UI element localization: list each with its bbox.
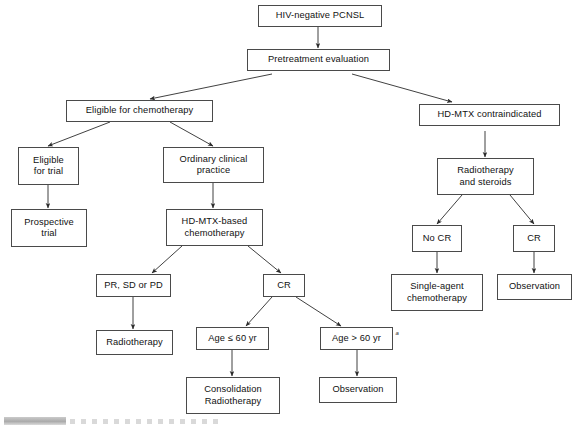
edge-hdmtxchemo-to-crcenter — [248, 246, 281, 273]
node-label: Consolidation Radiotherapy — [204, 384, 262, 407]
node-hd-mtx-contraindicated: HD-MTX contraindicated — [419, 104, 560, 126]
node-label: PR, SD or PD — [104, 280, 163, 292]
node-label: CR — [277, 280, 291, 292]
node-label: Prospective trial — [24, 217, 74, 240]
footnote-marker-a: a — [396, 328, 399, 340]
edge-pretreatment-to-hdmtx — [352, 74, 452, 102]
edge-radiosteroids-to-nocr — [437, 195, 462, 224]
node-label: No CR — [423, 233, 451, 245]
edge-hdmtxchemo-to-prsdpd — [152, 246, 182, 273]
node-single-agent-chemotherapy: Single-agent chemotherapy — [391, 274, 483, 311]
edge-crcenter-to-agegt60 — [296, 297, 341, 326]
edge-eligible-to-trial — [48, 122, 110, 146]
node-radiotherapy-and-steroids: Radiotherapy and steroids — [437, 158, 534, 195]
node-label: Eligible for chemotherapy — [86, 105, 193, 117]
node-label: Observation — [509, 281, 560, 293]
node-consolidation-radiotherapy: Consolidation Radiotherapy — [186, 377, 280, 414]
edge-radiosteroids-to-crright — [510, 195, 534, 224]
node-label: HD-MTX contraindicated — [438, 109, 542, 121]
node-label: Eligible for trial — [33, 155, 64, 178]
node-label: Age ≤ 60 yr — [208, 333, 257, 345]
node-radiotherapy-left: Radiotherapy — [96, 330, 173, 355]
node-label: Radiotherapy — [106, 337, 163, 349]
edge-crcenter-to-agele60 — [246, 297, 272, 326]
node-eligible-for-trial: Eligible for trial — [18, 147, 79, 185]
node-label: Radiotherapy and steroids — [457, 165, 514, 188]
node-hiv-negative-pcnsl: HIV-negative PCNSL — [258, 5, 382, 27]
node-no-cr: No CR — [412, 225, 462, 252]
flowchart-canvas: HIV-negative PCNSL Pretreatment evaluati… — [0, 0, 575, 427]
node-ordinary-clinical-practice: Ordinary clinical practice — [163, 147, 264, 183]
node-label: Single-agent chemotherapy — [407, 281, 467, 304]
node-hd-mtx-based-chemotherapy: HD-MTX-based chemotherapy — [166, 209, 263, 246]
node-label: Pretreatment evaluation — [268, 54, 369, 66]
node-eligible-for-chemotherapy: Eligible for chemotherapy — [66, 100, 213, 122]
scan-edge-artifact — [4, 417, 66, 425]
node-prospective-trial: Prospective trial — [11, 209, 87, 247]
node-pr-sd-or-pd: PR, SD or PD — [96, 274, 171, 297]
node-pretreatment-evaluation: Pretreatment evaluation — [247, 49, 390, 71]
node-observation-center: Observation — [319, 377, 397, 403]
node-cr-center: CR — [263, 274, 305, 297]
edge-eligible-to-ordinary — [170, 122, 213, 146]
node-label: HIV-negative PCNSL — [276, 10, 365, 22]
node-label: Age > 60 yr — [332, 333, 381, 345]
node-observation-right: Observation — [497, 274, 572, 300]
node-label: CR — [527, 233, 541, 245]
node-label: Observation — [332, 384, 383, 396]
node-label: Ordinary clinical practice — [180, 154, 248, 177]
node-label: HD-MTX-based chemotherapy — [182, 216, 248, 239]
node-cr-right: CR — [513, 225, 555, 252]
node-age-le-60: Age ≤ 60 yr — [196, 327, 269, 350]
edge-pretreatment-to-eligible — [150, 74, 272, 99]
node-age-gt-60: Age > 60 yr a — [320, 327, 393, 350]
scan-edge-artifact-tail — [70, 419, 220, 424]
